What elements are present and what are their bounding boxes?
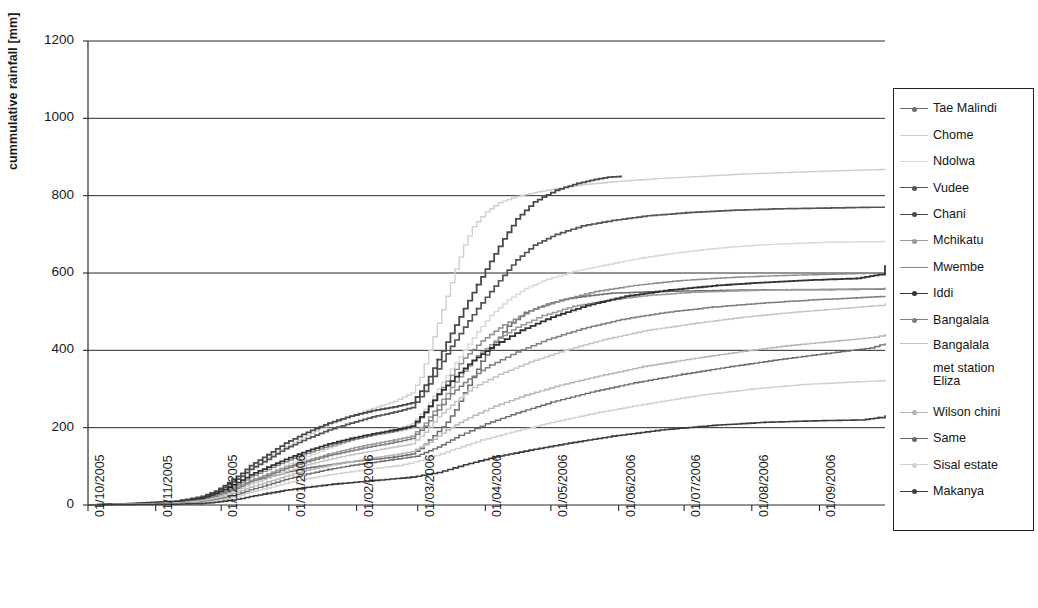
- series-marker: [436, 404, 438, 406]
- legend-line-icon: [900, 288, 928, 300]
- y-tick-marks: [83, 41, 88, 505]
- legend-item[interactable]: Mchikatu: [900, 228, 1029, 254]
- y-tick-label: 400: [22, 341, 74, 356]
- y-tick-label: 1000: [22, 109, 74, 124]
- series-marker: [266, 458, 268, 460]
- series-marker: [524, 394, 526, 396]
- series-marker: [327, 422, 329, 424]
- x-tick-label: 01/01/2006: [294, 454, 308, 517]
- x-tick-label: 01/02/2006: [362, 454, 376, 517]
- series-marker: [786, 345, 788, 347]
- legend-item[interactable]: Chome: [900, 122, 1029, 148]
- series-marker: [266, 484, 268, 486]
- series-marker: [856, 278, 858, 280]
- legend-label: Same: [933, 432, 966, 446]
- legend-item[interactable]: Makanya: [900, 479, 1029, 505]
- series-marker: [266, 454, 268, 456]
- series-marker: [201, 497, 203, 499]
- x-tick-label: 01/03/2006: [423, 454, 437, 517]
- series-marker: [393, 411, 395, 413]
- series-marker: [87, 504, 89, 506]
- x-tick-label: 01/08/2006: [757, 454, 771, 517]
- series-marker: [327, 455, 329, 457]
- series-marker: [393, 454, 395, 456]
- legend-label: Mwembe: [933, 261, 984, 275]
- plot-canvas: [0, 0, 1038, 608]
- x-tick-label: 01/07/2006: [689, 454, 703, 517]
- series-marker: [201, 503, 203, 505]
- series-marker: [825, 353, 827, 355]
- legend-item[interactable]: Tae Malindi: [900, 96, 1029, 122]
- series-marker: [685, 212, 687, 214]
- legend-line-icon: [900, 209, 928, 221]
- x-tick-label: 01/12/2005: [226, 454, 240, 517]
- legend-label: Bangalalamet stationEliza: [933, 338, 995, 388]
- legend-item[interactable]: Vudee: [900, 175, 1029, 201]
- x-tick-label: 01/04/2006: [490, 454, 504, 517]
- y-tick-label: 800: [22, 187, 74, 202]
- series-marker: [393, 406, 395, 408]
- series-marker: [476, 284, 478, 286]
- legend-line-icon: [900, 314, 928, 326]
- legend-item[interactable]: Same: [900, 426, 1029, 452]
- series-marker: [327, 429, 329, 431]
- legend-line-icon: [900, 338, 928, 350]
- y-tick-label: 200: [22, 419, 74, 434]
- series-marker: [397, 465, 399, 467]
- series-marker: [393, 441, 395, 443]
- legend-item[interactable]: Chani: [900, 202, 1029, 228]
- series-marker: [454, 409, 456, 411]
- legend-item[interactable]: Ndolwa: [900, 149, 1029, 175]
- series-marker: [428, 439, 430, 441]
- legend-label: Sisal estate: [933, 459, 998, 473]
- series-marker: [327, 469, 329, 471]
- series-marker: [458, 435, 460, 437]
- legend-item[interactable]: Sisal estate: [900, 452, 1029, 478]
- series-marker: [642, 366, 644, 368]
- series-marker: [581, 225, 583, 227]
- series-marker: [878, 417, 880, 419]
- series-marker: [764, 421, 766, 423]
- series-marker: [476, 355, 478, 357]
- series-marker: [393, 456, 395, 458]
- legend-item[interactable]: Wilson chini: [900, 400, 1029, 426]
- series-marker: [646, 295, 648, 297]
- series-marker: [393, 439, 395, 441]
- x-tick-label: 01/11/2005: [161, 455, 175, 517]
- series-marker: [515, 259, 517, 261]
- series-marker: [266, 493, 268, 495]
- x-tick-marks: [88, 505, 819, 511]
- series-marker: [825, 207, 827, 209]
- legend[interactable]: Tae MalindiChomeNdolwaVudeeChaniMchikatu…: [893, 88, 1034, 531]
- series-marker: [332, 483, 334, 485]
- series-marker: [856, 297, 858, 299]
- series-marker: [598, 411, 600, 413]
- legend-label-line: met station: [933, 362, 995, 375]
- legend-label: Chome: [933, 129, 974, 143]
- legend-line-icon: [900, 407, 928, 419]
- legend-item[interactable]: Iddi: [900, 281, 1029, 307]
- series-marker: [589, 295, 591, 297]
- legend-line-icon: [900, 459, 928, 471]
- legend-line-icon: [900, 182, 928, 194]
- chart-root: cummulative rainfall [mm] 12001000800600…: [0, 0, 1038, 608]
- series-marker: [716, 284, 718, 286]
- series-marker: [266, 466, 268, 468]
- legend-label: Mchikatu: [933, 234, 983, 248]
- series-marker: [201, 496, 203, 498]
- x-tick-label: 01/09/2006: [824, 454, 838, 517]
- series-marker: [480, 439, 482, 441]
- series-marker: [266, 473, 268, 475]
- series-marker: [266, 481, 268, 483]
- legend-item[interactable]: Bangalala: [900, 307, 1029, 333]
- legend-label-line: Bangalala: [933, 338, 995, 353]
- series-marker: [393, 458, 395, 460]
- series-marker: [620, 175, 622, 177]
- legend-item[interactable]: Bangalalamet stationEliza: [900, 334, 1029, 400]
- legend-item[interactable]: Mwembe: [900, 254, 1029, 280]
- series-marker: [266, 475, 268, 477]
- series-marker: [611, 435, 613, 437]
- series-marker: [884, 334, 886, 336]
- y-tick-label: 0: [22, 496, 74, 511]
- legend-label: Makanya: [933, 485, 984, 499]
